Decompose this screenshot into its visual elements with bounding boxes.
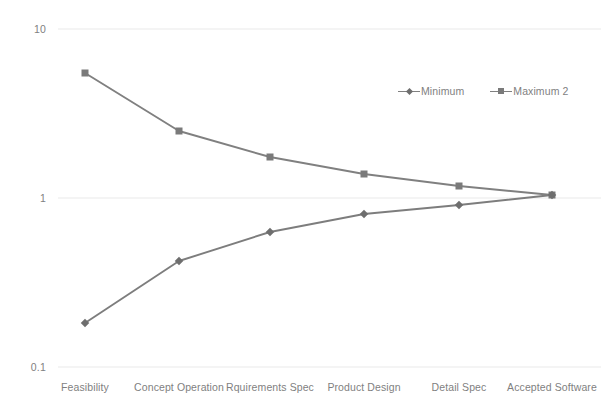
data-point-marker: [266, 228, 274, 236]
data-point-marker: [82, 70, 89, 77]
chart-legend: Minimum Maximum 2: [398, 85, 568, 97]
series-minimum: [81, 191, 556, 327]
data-point-marker: [361, 171, 368, 178]
data-point-marker: [455, 201, 463, 209]
series-minimum-line: [85, 195, 552, 323]
x-axis-tick-accepted-software: Accepted Software: [492, 381, 612, 393]
legend-item-minimum[interactable]: Minimum: [398, 85, 464, 97]
chart-plot-area: [0, 0, 614, 414]
y-axis-tick-10: 10: [0, 23, 46, 35]
legend-item-maximum-2[interactable]: Maximum 2: [490, 85, 568, 97]
data-point-marker: [360, 210, 368, 218]
y-axis-tick-1: 1: [0, 192, 46, 204]
data-point-marker: [176, 128, 183, 135]
diamond-marker-icon: [398, 86, 420, 96]
legend-label-minimum: Minimum: [420, 85, 464, 97]
chart-container: 10 1 0.1 Feasibility Concept Operation R…: [0, 0, 614, 414]
data-point-marker: [267, 154, 274, 161]
legend-label-maximum-2: Maximum 2: [512, 85, 568, 97]
square-marker-icon: [490, 86, 512, 96]
y-axis-tick-0-1: 0.1: [0, 361, 46, 373]
data-point-marker: [456, 183, 463, 190]
